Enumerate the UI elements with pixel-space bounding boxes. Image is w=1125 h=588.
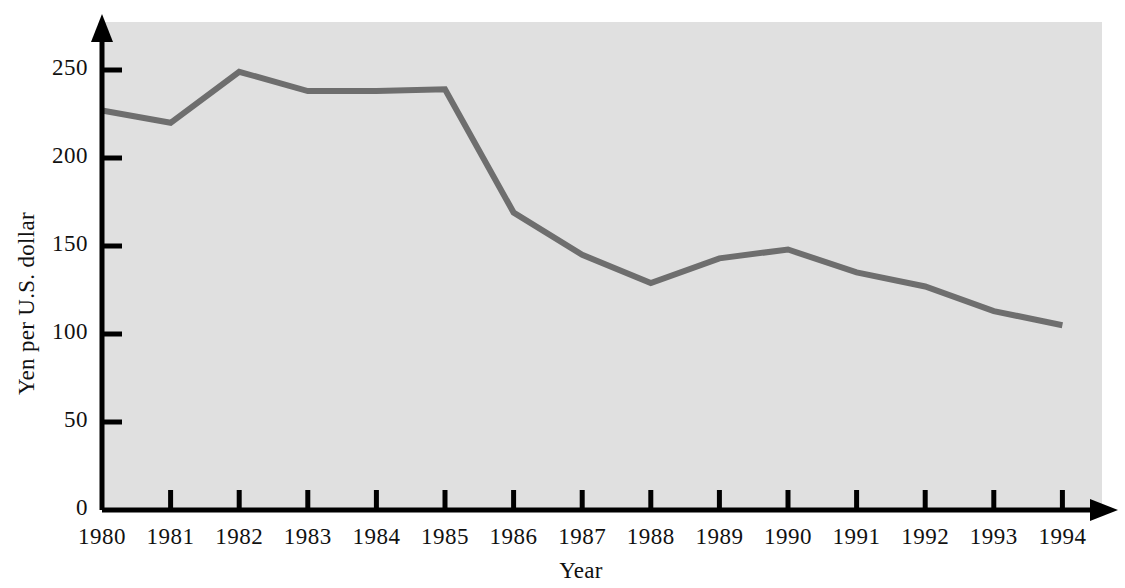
x-axis-title: Year [102,558,1060,584]
y-tick-label-200: 200 [52,143,88,169]
y-axis-title: Yen per U.S. dollar [14,212,40,395]
chart-plot-svg [0,0,1125,588]
y-tick-label-50: 50 [64,407,88,433]
y-tick-label-150: 150 [52,231,88,257]
y-tick-label-100: 100 [52,319,88,345]
x-tick-label-1994: 1994 [1022,524,1102,550]
y-tick-label-250: 250 [52,55,88,81]
x-axis-arrowhead [1090,499,1118,521]
y-tick-label-0: 0 [76,495,88,521]
chart-container: 250200150100500 198019811982198319841985… [0,0,1125,588]
